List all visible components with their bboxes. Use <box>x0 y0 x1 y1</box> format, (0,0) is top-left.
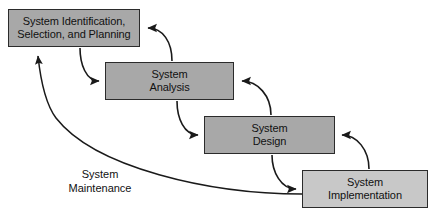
flow-label-system-maintenance: System Maintenance <box>55 167 145 195</box>
arrow-implementation-to-design <box>342 135 369 169</box>
stage-label-implementation: System Implementation <box>324 176 406 203</box>
stage-box-design[interactable]: System Design <box>204 116 335 154</box>
stage-label-design: System Design <box>247 122 291 149</box>
sdlc-diagram: System Identification, Selection, and Pl… <box>0 0 437 217</box>
arrow-design-to-analysis <box>242 81 271 115</box>
stage-box-identification[interactable]: System Identification, Selection, and Pl… <box>8 9 140 47</box>
arrow-analysis-to-design <box>177 101 198 135</box>
stage-box-analysis[interactable]: System Analysis <box>105 62 234 100</box>
stage-label-analysis: System Analysis <box>145 68 193 95</box>
stage-box-implementation[interactable]: System Implementation <box>302 170 428 208</box>
arrow-identification-to-analysis <box>80 48 99 81</box>
stage-label-identification: System Identification, Selection, and Pl… <box>13 15 134 42</box>
arrow-design-to-implementation <box>272 155 296 189</box>
arrow-analysis-to-identification <box>148 28 172 61</box>
